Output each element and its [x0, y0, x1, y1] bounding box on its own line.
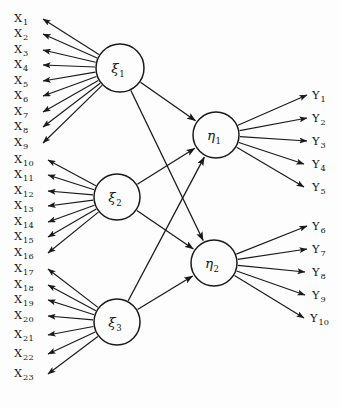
- loading-arrow-xi1-x-2: [43, 34, 97, 58]
- y-indicator-label-y10: Y10: [309, 311, 329, 327]
- loading-arrow-eta1-y-4: [239, 143, 304, 164]
- loading-arrow-eta2-y-1: [236, 226, 307, 254]
- y-indicator-label-y2: Y2: [311, 111, 326, 127]
- loading-arrow-xi2-x-2: [48, 175, 94, 190]
- x-indicator-label-x11: X11: [14, 167, 34, 183]
- y-indicator-label-y4: Y4: [311, 157, 326, 173]
- x-indicator-label-x14: X14: [14, 214, 34, 230]
- x-indicator-label-x19: X19: [14, 292, 34, 308]
- x-indicator-label-x13: X13: [14, 198, 34, 214]
- x-indicator-label-x23: X23: [14, 366, 34, 382]
- x-indicator-label-x6: X6: [14, 88, 28, 104]
- loading-arrow-eta1-y-3: [240, 137, 307, 141]
- loading-arrow-xi3-x-4: [48, 316, 93, 320]
- x-indicator-label-x22: X22: [14, 346, 34, 362]
- latent-node-eta2: η2: [191, 240, 237, 286]
- x-indicator-label-x12: X12: [14, 183, 34, 199]
- latent-node-xi3: ξ3: [94, 299, 140, 345]
- x-indicator-label-x17: X17: [14, 261, 34, 277]
- loading-arrow-eta2-y-3: [238, 265, 305, 272]
- diagram-canvas: ξ1ξ2ξ3η1η2 X1X2X3X4X5X6X7X8X9X10X11X12X1…: [0, 0, 340, 409]
- y-indicator-label-y3: Y3: [311, 134, 326, 150]
- structural-path-xi3-eta2: [138, 276, 193, 310]
- loading-arrow-xi3-x-1: [48, 269, 98, 307]
- x-indicator-label-x18: X18: [14, 277, 34, 293]
- loading-arrow-xi1-x-4: [43, 65, 95, 67]
- loading-arrow-xi1-x-9: [43, 85, 102, 143]
- x-indicator-label-x5: X5: [14, 73, 28, 89]
- x-indicator-label-x10: X10: [14, 152, 34, 168]
- loading-arrow-xi2-x-1: [48, 160, 96, 186]
- latent-node-xi2: ξ2: [94, 174, 140, 220]
- x-indicator-label-x2: X2: [14, 26, 28, 42]
- measurement-paths-group: [43, 19, 307, 374]
- loading-arrow-xi2-x-3: [48, 191, 93, 195]
- loading-arrow-eta2-y-2: [238, 249, 307, 259]
- loading-arrow-eta1-y-1: [238, 95, 307, 125]
- indicator-labels-group: X1X2X3X4X5X6X7X8X9X10X11X12X13X14X15X16X…: [14, 11, 329, 382]
- structural-path-xi2-eta1: [137, 148, 194, 184]
- y-indicator-label-y9: Y9: [311, 288, 326, 304]
- y-indicator-label-y8: Y8: [311, 265, 326, 281]
- loading-arrow-xi1-x-1: [43, 19, 99, 55]
- loading-arrow-xi1-x-8: [43, 83, 100, 127]
- loading-arrow-xi1-x-3: [43, 50, 96, 62]
- x-indicator-label-x1: X1: [14, 11, 28, 27]
- latent-node-eta1: η1: [193, 112, 239, 158]
- x-indicator-label-x20: X20: [14, 308, 34, 324]
- y-indicator-label-y7: Y7: [311, 242, 326, 258]
- structural-path-xi1-eta1: [141, 82, 196, 120]
- loading-arrow-xi3-x-3: [48, 300, 94, 315]
- x-indicator-label-x9: X9: [14, 135, 28, 151]
- x-indicator-label-x7: X7: [14, 104, 28, 120]
- x-indicator-label-x4: X4: [14, 57, 28, 73]
- loading-arrow-xi2-x-4: [48, 200, 93, 206]
- x-indicator-label-x8: X8: [14, 119, 28, 135]
- x-indicator-label-x3: X3: [14, 42, 28, 58]
- sem-path-diagram: ξ1ξ2ξ3η1η2 X1X2X3X4X5X6X7X8X9X10X11X12X1…: [0, 0, 340, 409]
- x-indicator-label-x15: X15: [14, 229, 34, 245]
- y-indicator-label-y6: Y6: [311, 219, 326, 235]
- y-indicator-label-y5: Y5: [311, 180, 326, 196]
- latent-nodes-group: ξ1ξ2ξ3η1η2: [94, 44, 239, 345]
- structural-path-xi3-eta1: [128, 157, 204, 301]
- loading-arrow-xi3-x-5: [48, 326, 93, 335]
- latent-node-xi1: ξ1: [96, 44, 144, 92]
- x-indicator-label-x16: X16: [14, 245, 34, 261]
- loading-arrow-xi1-x-7: [43, 80, 98, 112]
- y-indicator-label-y1: Y1: [311, 88, 326, 104]
- structural-path-xi2-eta2: [137, 211, 193, 249]
- loading-arrow-xi3-x-2: [48, 285, 96, 311]
- x-indicator-label-x21: X21: [14, 327, 34, 343]
